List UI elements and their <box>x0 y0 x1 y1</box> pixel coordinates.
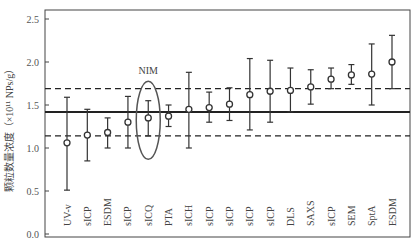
data-point <box>247 59 253 130</box>
open-circle-marker <box>389 59 395 65</box>
plot-frame <box>45 10 410 237</box>
data-point <box>389 35 395 88</box>
data-point <box>287 68 293 112</box>
open-circle-marker <box>125 119 131 125</box>
y-tick-label: 1.0 <box>27 143 40 154</box>
data-point <box>369 44 375 105</box>
open-circle-marker <box>267 88 273 94</box>
y-tick-label: 1.5 <box>27 100 40 111</box>
category-label: sICP <box>244 206 255 226</box>
open-circle-marker <box>166 113 172 119</box>
category-label: PTA <box>163 207 174 226</box>
open-circle-marker <box>369 71 375 77</box>
y-tick-label: 0.0 <box>27 229 40 240</box>
category-label: SEM <box>346 205 357 226</box>
data-point <box>348 65 354 85</box>
category-label: sICP <box>224 206 235 226</box>
open-circle-marker <box>287 87 293 93</box>
data-point <box>267 60 273 122</box>
category-label: DLS <box>285 207 296 226</box>
y-tick-label: 2.0 <box>27 57 40 68</box>
open-circle-marker <box>84 132 90 138</box>
category-label: SptA <box>366 205 377 226</box>
data-point <box>105 118 111 148</box>
category-label: sICP <box>204 206 215 226</box>
plot-border <box>45 10 410 237</box>
open-circle-marker <box>308 84 314 90</box>
open-circle-marker <box>328 76 334 82</box>
category-label: ESDM <box>387 198 398 226</box>
y-axis-label: 颗粒数量浓度（×10¹¹ NPs/g） <box>3 64 15 193</box>
errorbar-chart: 0.00.51.01.52.02.5 UV-vsICPESDMsICPsICQP… <box>0 0 413 249</box>
data-point <box>166 105 172 127</box>
y-tick-label: 2.5 <box>27 14 40 25</box>
y-axis: 0.00.51.01.52.02.5 <box>27 14 50 240</box>
category-label: ESDM <box>102 198 113 226</box>
data-point <box>125 96 131 148</box>
x-axis-labels: UV-vsICPESDMsICPsICQPTAsICHsICPsICPsICPs… <box>62 198 398 226</box>
data-point <box>206 92 212 122</box>
open-circle-marker <box>186 106 192 112</box>
data-point <box>308 70 314 104</box>
open-circle-marker <box>105 130 111 136</box>
data-point <box>145 101 151 136</box>
annotation-label: NIM <box>139 65 159 76</box>
data-point <box>84 109 90 161</box>
y-tick-label: 0.5 <box>27 186 40 197</box>
category-label: sICQ <box>143 204 154 226</box>
data-point <box>227 88 233 121</box>
reference-lines <box>45 89 410 136</box>
open-circle-marker <box>247 92 253 98</box>
open-circle-marker <box>64 140 70 146</box>
data-point <box>328 68 334 89</box>
open-circle-marker <box>206 105 212 111</box>
category-label: sICP <box>122 206 133 226</box>
open-circle-marker <box>348 72 354 78</box>
category-label: sICP <box>82 206 93 226</box>
open-circle-marker <box>145 115 151 121</box>
open-circle-marker <box>227 101 233 107</box>
data-point <box>186 72 192 148</box>
category-label: sICH <box>183 205 194 226</box>
category-label: UV-v <box>62 204 73 226</box>
category-label: sICP <box>265 206 276 226</box>
category-label: sICP <box>326 206 337 226</box>
category-label: SAXS <box>305 200 316 226</box>
